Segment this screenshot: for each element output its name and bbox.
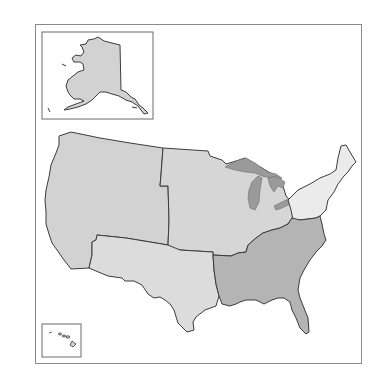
- aleutian-island-icon: [62, 64, 66, 66]
- alaska-region[interactable]: [64, 37, 148, 114]
- northeast-region[interactable]: [288, 145, 356, 220]
- alaska-island-icon: [132, 107, 137, 108]
- us-regions-map: [0, 0, 386, 386]
- hawaii-region[interactable]: [49, 332, 76, 347]
- hawaii-inset-frame: [42, 324, 81, 357]
- aleutian-island-icon: [48, 108, 50, 112]
